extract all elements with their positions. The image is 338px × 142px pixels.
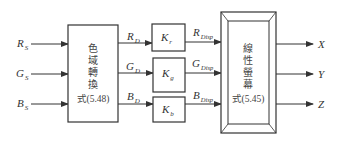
input-label-r: RS (16, 37, 29, 52)
intermediate-label-b: BD (127, 90, 140, 105)
gamut-char-1: 色 (88, 42, 98, 54)
output-label-y: Y (318, 68, 326, 80)
input-label-b: BS (17, 97, 29, 112)
display-label-r: RDisp (192, 26, 214, 40)
output-label-z: Z (318, 98, 325, 110)
screen-char-1: 線 (243, 42, 253, 54)
screen-char-2: 性 (243, 54, 253, 66)
gamut-char-3: 轉 (88, 66, 98, 78)
screen-char-4: 幕 (243, 78, 253, 90)
gamut-equation: 式(5.48) (77, 93, 110, 105)
svg-text:BD: BD (127, 90, 140, 105)
svg-text:BS: BS (17, 97, 29, 112)
svg-text:GDisp: GDisp (192, 57, 214, 71)
screen-char-3: 螢 (243, 66, 253, 78)
gamut-char-4: 換 (88, 79, 98, 90)
svg-text:BDisp: BDisp (193, 89, 214, 103)
display-label-g: GDisp (192, 57, 214, 71)
output-label-x: X (317, 38, 326, 50)
input-label-g: GS (16, 67, 29, 82)
display-label-b: BDisp (193, 89, 214, 103)
gamut-char-2: 域 (88, 54, 98, 66)
screen-equation: 式(5.45) (232, 93, 265, 105)
block-diagram: RS GS BS 色 域 轉 換 式(5.48) RD GD BD Kr Kg … (0, 0, 338, 142)
svg-text:RS: RS (16, 37, 29, 52)
svg-text:RDisp: RDisp (192, 26, 214, 40)
svg-text:GS: GS (16, 67, 29, 82)
